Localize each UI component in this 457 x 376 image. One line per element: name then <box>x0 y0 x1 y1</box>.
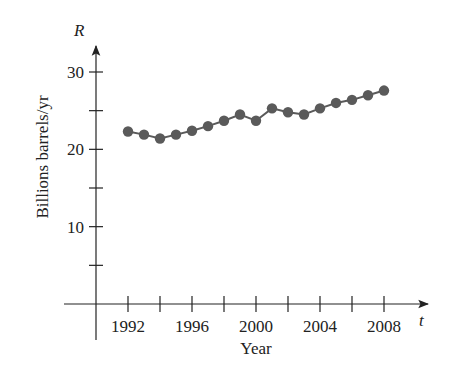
x-tick-labels: 19921996200020042008 <box>111 317 401 336</box>
x-tick-label: 2004 <box>303 317 338 336</box>
y-tick-label: 30 <box>67 63 84 82</box>
y-axis-variable: R <box>73 21 85 40</box>
data-point <box>347 95 357 105</box>
data-point <box>235 109 245 119</box>
y-tick-label: 10 <box>67 218 84 237</box>
data-point <box>331 98 341 108</box>
x-axis-title: Year <box>240 339 272 358</box>
data-point <box>139 129 149 139</box>
x-tick-label: 1992 <box>111 317 145 336</box>
data-point <box>251 116 261 126</box>
data-point <box>315 103 325 113</box>
data-point <box>299 109 309 119</box>
series-markers <box>123 85 389 143</box>
data-point <box>267 103 277 113</box>
x-tick-label: 2008 <box>367 317 401 336</box>
data-point <box>379 85 389 95</box>
data-point <box>171 129 181 139</box>
data-point <box>123 126 133 136</box>
y-tick-label: 20 <box>67 140 84 159</box>
data-point <box>187 126 197 136</box>
x-axis-variable: t <box>419 311 425 330</box>
data-point <box>203 121 213 131</box>
y-axis-title: Billions barrels/yr <box>33 95 52 219</box>
chart: 102030 19921996200020042008 R t Year Bil… <box>0 0 457 376</box>
series-line <box>128 91 384 139</box>
data-point <box>363 90 373 100</box>
x-tick-label: 1996 <box>175 317 209 336</box>
data-point <box>155 133 165 143</box>
x-tick-label: 2000 <box>239 317 273 336</box>
data-point <box>219 116 229 126</box>
y-tick-labels: 102030 <box>67 63 84 237</box>
data-point <box>283 107 293 117</box>
